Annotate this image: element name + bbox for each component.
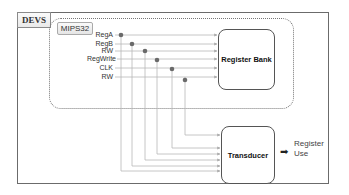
register-bank-label: Register Bank — [221, 55, 271, 64]
signal-wiring — [0, 0, 349, 195]
devs-diagram: DEVS MIPS32 RegA RegB RW RegWrite CLK RW — [0, 0, 349, 195]
transducer-block: Transducer — [221, 126, 275, 184]
output-label: Register Use — [294, 139, 324, 159]
signal-tap-dots — [119, 33, 188, 83]
transducer-label: Transducer — [228, 151, 268, 160]
output-arrow-icon: ➡ — [280, 146, 288, 157]
output-label-line1: Register — [294, 139, 324, 149]
output-label-line2: Use — [294, 149, 324, 159]
register-bank-block: Register Bank — [218, 29, 275, 90]
